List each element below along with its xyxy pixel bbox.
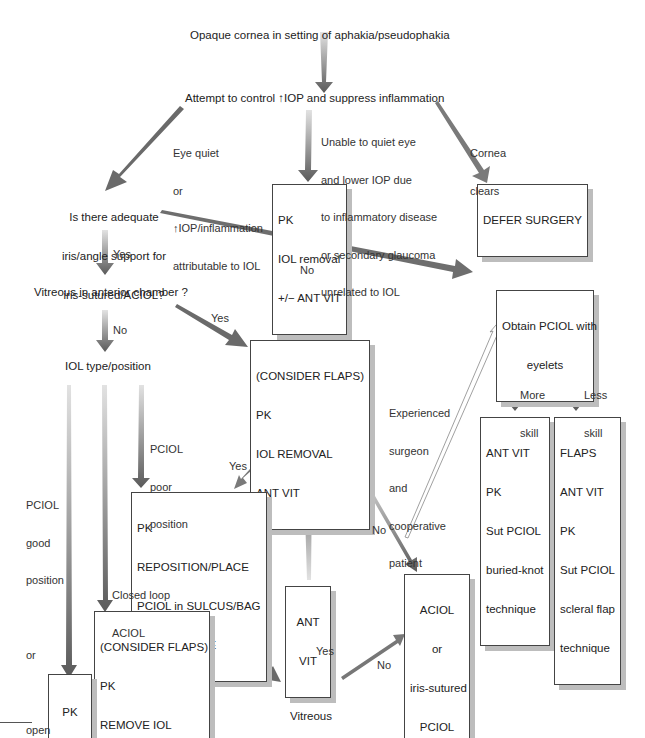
label-capsule-no: No: [372, 524, 386, 537]
label-cornea-clears: Cornea clears: [470, 122, 506, 222]
node-start: Opaque cornea in setting of aphakia/pseu…: [190, 29, 450, 42]
box-consider-flaps-iol-removal: (CONSIDER FLAPS) PK IOL REMOVAL ANT VIT: [250, 340, 370, 530]
label-eye-quiet: Eye quiet or ↑IOP/inflammation attributa…: [173, 122, 263, 297]
label-vitreous-no: No: [113, 324, 127, 337]
label-vitreous-yes: Yes: [211, 312, 229, 325]
label-pciol-poor: PCIOL poor position: [150, 418, 188, 556]
page-corner-rule: [0, 722, 32, 723]
arrow-vitreous-yes: [175, 304, 248, 347]
arrow-closed-loop: [97, 385, 113, 612]
label-closed-loop: Closed loop ACIOL: [112, 564, 170, 664]
label-experienced-surgeon: Experienced surgeon and cooperative pati…: [389, 382, 450, 595]
box-ant-vit: ANT VIT: [285, 586, 331, 698]
label-support-yes: Yes: [113, 248, 131, 261]
label-unable-quiet: Unable to quiet eye and lower IOP due to…: [321, 111, 437, 324]
label-less-skill: Less skill: [584, 364, 607, 464]
arrow-pciol-poor: [132, 385, 150, 488]
label-more-skill: More skill: [520, 364, 545, 464]
label-capsule-yes: Yes: [229, 460, 247, 473]
label-support-no: No: [300, 264, 314, 277]
node-iol-type: IOL type/position: [65, 360, 151, 373]
node-vitreous-ac: Vitreous in anterior chamber ?: [34, 286, 188, 299]
arrow-encountered-no: [341, 634, 405, 680]
arrow-control-to-pk-removal: [298, 110, 318, 182]
label-encountered-no: No: [377, 659, 391, 672]
label-pciol-good-or-open-loop: PCIOL good position or open loop ACIOL g…: [26, 474, 64, 738]
label-encountered-yes: Yes: [316, 645, 334, 658]
flowchart-canvas: Opaque cornea in setting of aphakia/pseu…: [0, 0, 645, 738]
box-aciol-or-iris-sutured: ACIOL or iris-sutured PCIOL: [404, 574, 470, 738]
node-control: Attempt to control ↑IOP and suppress inf…: [185, 92, 444, 105]
